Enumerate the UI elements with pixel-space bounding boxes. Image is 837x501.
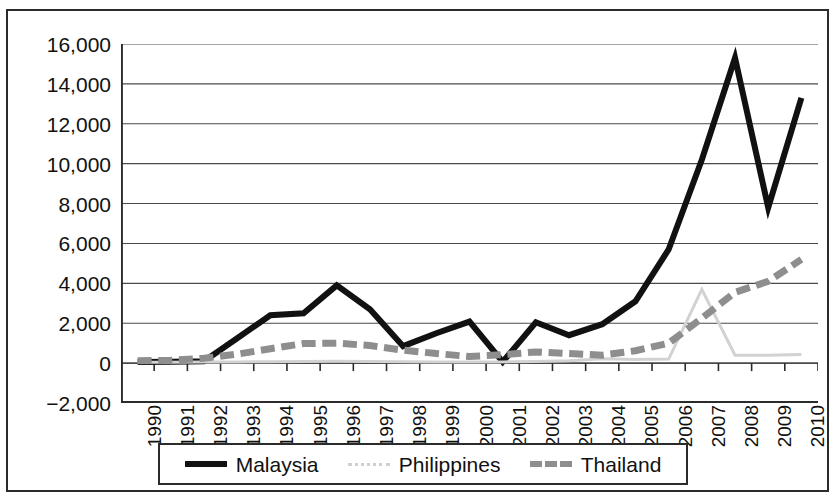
x-axis-tick-2007: 2007 [709,405,728,447]
y-axis-tick-neg2000: −2,000 [46,393,111,414]
y-axis-tick-6000: 6,000 [58,233,111,254]
dashed-line-icon [530,461,572,467]
series-line-malaysia [138,58,802,362]
x-axis-tick-2008: 2008 [742,405,761,447]
x-axis-tick-2000: 2000 [477,405,496,447]
x-axis-tick-1993: 1993 [244,405,263,447]
chart-root: 16,00014,00012,00010,0008,0006,0004,0002… [0,0,837,501]
x-axis-tick-2006: 2006 [676,405,695,447]
solid-line-icon [185,461,227,467]
chart-legend: MalaysiaPhilippinesThailand [158,443,688,485]
legend-label: Philippines [399,454,501,475]
x-axis-tick-1995: 1995 [311,405,330,447]
dotted-line-icon [348,463,390,466]
legend-label: Malaysia [236,454,319,475]
x-axis-tick-1997: 1997 [377,405,396,447]
x-axis-tick-2005: 2005 [642,405,661,447]
x-axis-tick-2009: 2009 [775,405,794,447]
y-axis-tick-0: 0 [99,353,111,374]
y-axis-tick-labels: 16,00014,00012,00010,0008,0006,0004,0002… [0,0,119,403]
x-axis-tick-1991: 1991 [178,405,197,447]
legend-label: Thailand [581,454,662,475]
series-line-thailand [138,259,802,360]
y-axis-tick-14000: 14,000 [47,73,111,94]
y-axis-tick-4000: 4,000 [58,273,111,294]
x-axis-tick-1992: 1992 [211,405,230,447]
line-chart-svg [121,44,818,403]
legend-item-thailand[interactable]: Thailand [530,454,662,475]
plot-area [121,44,818,403]
x-axis-tick-2001: 2001 [510,405,529,447]
x-axis-tick-2010: 2010 [808,405,827,447]
x-axis-tick-1990: 1990 [145,405,164,447]
x-axis-tick-2004: 2004 [609,405,628,447]
legend-item-philippines[interactable]: Philippines [348,454,501,475]
legend-item-malaysia[interactable]: Malaysia [185,454,319,475]
y-axis-tick-10000: 10,000 [47,153,111,174]
y-axis-tick-2000: 2,000 [58,313,111,334]
x-axis-tick-1998: 1998 [410,405,429,447]
x-axis-tick-2002: 2002 [543,405,562,447]
y-axis-tick-8000: 8,000 [58,193,111,214]
x-axis-tick-1996: 1996 [344,405,363,447]
x-axis-tick-2003: 2003 [576,405,595,447]
x-axis-tick-1999: 1999 [443,405,462,447]
y-axis-tick-16000: 16,000 [47,34,111,55]
y-axis-tick-12000: 12,000 [47,113,111,134]
x-axis-tick-1994: 1994 [277,405,296,447]
